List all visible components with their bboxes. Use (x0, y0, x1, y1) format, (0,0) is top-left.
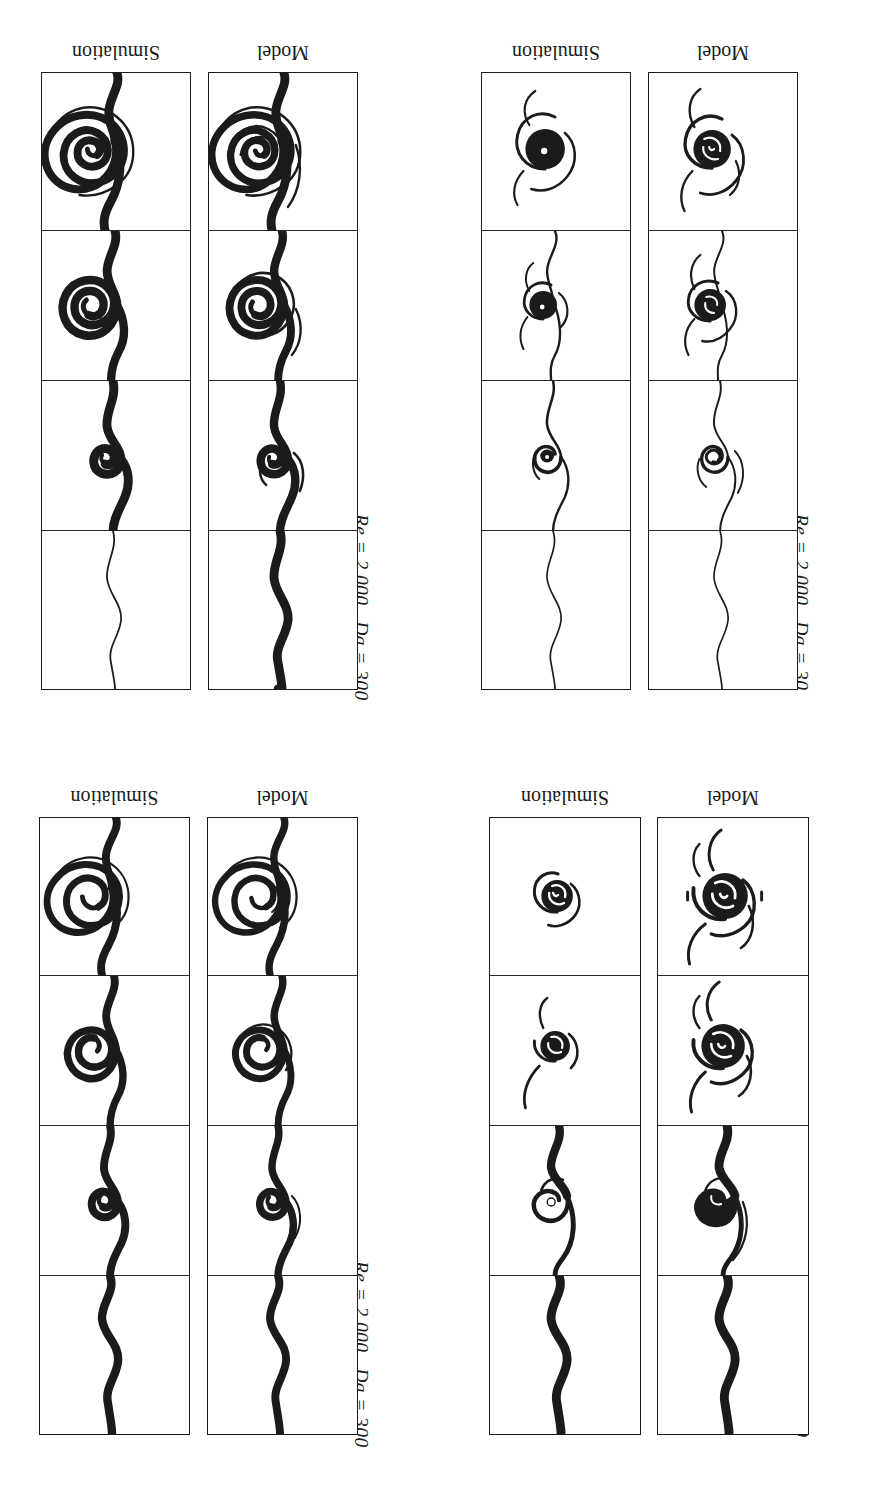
strip-model (657, 817, 809, 1435)
strip-model (207, 817, 358, 1435)
strip-model (648, 72, 798, 690)
frame-cell (40, 818, 189, 976)
frame-cell (208, 1276, 357, 1434)
frame-cell (482, 531, 630, 689)
strip-simulation (41, 72, 191, 690)
strip-simulation (489, 817, 641, 1435)
frame-cell (42, 381, 190, 531)
frame-cell (649, 381, 797, 531)
frame-cell (42, 73, 190, 231)
frame-cell (209, 381, 357, 531)
frame-cell (40, 1276, 189, 1434)
frame-cell (658, 976, 808, 1126)
frame-cell (490, 1126, 640, 1276)
row-label-simulation: Simulation (41, 41, 191, 64)
strip-simulation (481, 72, 631, 690)
frame-cell (490, 976, 640, 1126)
row-label-model: Model (207, 786, 358, 809)
row-label-model: Model (657, 786, 809, 809)
frame-cell (209, 531, 357, 689)
frame-cell (40, 976, 189, 1126)
quadrant-top-left: Re = 2,000Da = 300 (0, 0, 439, 746)
quadrant-top-right: Re = 2,000Da = 30 (440, 0, 879, 746)
frame-cell (482, 231, 630, 381)
figure-root: Re = 2,000Da = 300 (0, 0, 879, 1493)
frame-cell (42, 531, 190, 689)
frame-cell (42, 231, 190, 381)
frame-cell (658, 1126, 808, 1276)
frame-cell (490, 818, 640, 976)
frame-cell (40, 1126, 189, 1276)
frame-cell (490, 1276, 640, 1434)
frame-cell (482, 381, 630, 531)
strip-model (208, 72, 358, 690)
frame-cell (658, 1276, 808, 1434)
frame-cell (482, 73, 630, 231)
row-label-simulation: Simulation (39, 786, 190, 809)
frame-cell (209, 231, 357, 381)
frame-cell (658, 818, 808, 976)
frame-cell (208, 1126, 357, 1276)
frame-cell (649, 231, 797, 381)
frame-cell (649, 531, 797, 689)
row-label-simulation: Simulation (489, 786, 641, 809)
frame-cell (209, 73, 357, 231)
row-label-simulation: Simulation (481, 41, 631, 64)
frame-cell (208, 818, 357, 976)
row-label-model: Model (648, 41, 798, 64)
row-label-model: Model (208, 41, 358, 64)
quadrant-bottom-right: Re = 2,000Da = 30 (440, 747, 879, 1493)
strip-simulation (39, 817, 190, 1435)
quadrant-bottom-left: Re = 2,000Da = 300 (0, 747, 439, 1493)
frame-cell (649, 73, 797, 231)
frame-cell (208, 976, 357, 1126)
